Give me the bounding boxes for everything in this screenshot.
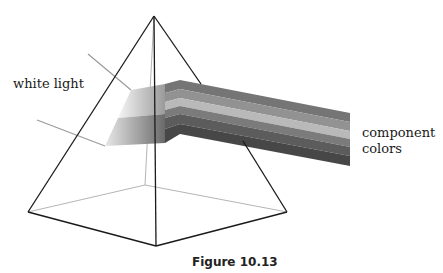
incoming-beam — [105, 84, 165, 146]
figure-caption: Figure 10.13 — [192, 255, 278, 269]
component-colors-label-line2: colors — [362, 141, 402, 157]
component-colors-label-line1: component — [362, 125, 435, 141]
component-color-bands — [165, 80, 350, 166]
white-light-label: white light — [13, 76, 84, 92]
